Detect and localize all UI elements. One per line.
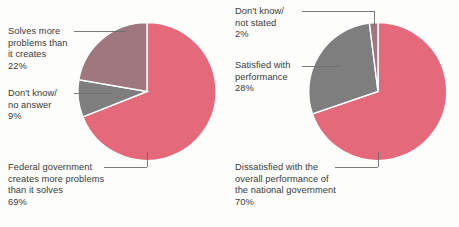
callout-dissatisfied-performance: Dissatisfied with the overall performanc…	[235, 162, 336, 208]
callout-line: Solves more	[8, 26, 68, 38]
callout-line: Satisfied with	[235, 60, 290, 72]
callout-line: than it solves	[8, 185, 104, 197]
callout-line: performance	[235, 72, 290, 84]
callout-satisfied-with-performance: Satisfied with performance 28%	[235, 60, 290, 95]
callout-dont-know-no-answer: Don't know/ no answer 9%	[8, 88, 57, 123]
callout-line: Don't know/	[8, 88, 57, 100]
callout-line: not stated	[235, 18, 284, 30]
callout-line: Don't know/	[235, 6, 284, 18]
callout-line: problems than	[8, 38, 68, 50]
callout-line: overall performance of	[235, 174, 336, 186]
callout-value: 2%	[235, 29, 284, 41]
callout-line: no answer	[8, 100, 57, 112]
pie-chart-figure: Solves more problems than it creates 22%…	[0, 0, 459, 227]
callout-line: the national government	[235, 185, 336, 197]
callout-line: Dissatisfied with the	[235, 162, 336, 174]
right-pie-chart	[309, 22, 447, 160]
callout-value: 22%	[8, 61, 68, 73]
callout-value: 9%	[8, 111, 57, 123]
callout-dont-know-not-stated: Don't know/ not stated 2%	[235, 6, 284, 41]
callout-line: creates more problems	[8, 174, 104, 186]
callout-line: it creates	[8, 49, 68, 61]
callout-value: 69%	[8, 197, 104, 209]
left-pie-chart	[78, 22, 216, 160]
callout-federal-government: Federal government creates more problems…	[8, 162, 104, 208]
callout-value: 70%	[235, 197, 336, 209]
left-slice-dont-know[interactable]	[79, 22, 147, 91]
callout-value: 28%	[235, 83, 290, 95]
callout-line: Federal government	[8, 162, 104, 174]
callout-solves-more-problems: Solves more problems than it creates 22%	[8, 26, 68, 72]
